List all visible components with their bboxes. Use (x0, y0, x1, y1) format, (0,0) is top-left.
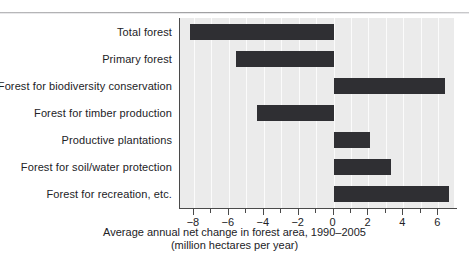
gridline (421, 18, 422, 208)
forest-area-change-chart: Total forestPrimary forestForest for bio… (0, 0, 469, 255)
category-label: Forest for timber production (34, 106, 172, 120)
category-label: Primary forest (102, 52, 172, 66)
axis-title-line-2: (million hectares per year) (0, 239, 469, 252)
gridline (368, 18, 369, 208)
bar (334, 186, 449, 202)
category-label: Total forest (117, 25, 172, 39)
axis-tick-minor (210, 209, 211, 213)
bar (334, 159, 392, 175)
category-label: Forest for recreation, etc. (46, 187, 172, 201)
axis-tick-major (228, 209, 229, 215)
plot-inner (180, 18, 454, 208)
axis-tick-major (367, 209, 368, 215)
bar (257, 105, 334, 121)
gridline (386, 18, 387, 208)
axis-tick-major (437, 209, 438, 215)
axis-line (179, 208, 457, 209)
axis-tick-minor (315, 209, 316, 213)
category-label: Forest for biodiversity conservation (0, 79, 172, 93)
bar (334, 132, 371, 148)
page-top-rule-shadow (0, 13, 469, 14)
axis-tick-minor (280, 209, 281, 213)
axis-tick-major (402, 209, 403, 215)
category-label: Forest for soil/water protection (21, 160, 172, 174)
bar (236, 51, 334, 67)
gridline (351, 18, 352, 208)
gridline (211, 18, 212, 208)
category-label: Productive plantations (62, 133, 172, 147)
gridline (334, 18, 335, 208)
axis-tick-major (333, 209, 334, 215)
axis-title: Average annual net change in forest area… (0, 226, 469, 252)
axis-tick-major (193, 209, 194, 215)
gridline (229, 18, 230, 208)
gridline (246, 18, 247, 208)
category-axis: Total forestPrimary forestForest for bio… (0, 18, 176, 208)
axis-tick-minor (385, 209, 386, 213)
axis-title-line-1: Average annual net change in forest area… (0, 226, 469, 239)
axis-tick-minor (350, 209, 351, 213)
axis-tick-major (298, 209, 299, 215)
bar (190, 24, 333, 40)
gridline (194, 18, 195, 208)
axis-tick-major (263, 209, 264, 215)
gridline (403, 18, 404, 208)
bar (334, 78, 446, 94)
gridline (438, 18, 439, 208)
plot-area (179, 18, 454, 208)
axis-tick-minor (245, 209, 246, 213)
axis-tick-minor (420, 209, 421, 213)
